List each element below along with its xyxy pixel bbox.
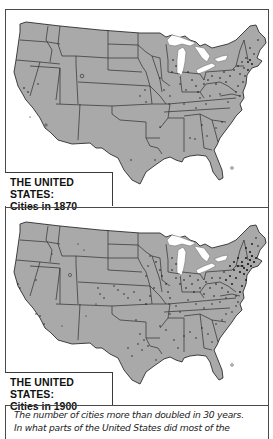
map-panel-1870: THE UNITED STATES: Cities in 1870 [5, 9, 269, 207]
map-panel-1900: THE UNITED STATES: Cities in 1900 [5, 207, 269, 405]
map-title: THE UNITED STATES: [10, 176, 112, 200]
caption-line-2: In what parts of the United States did m… [14, 422, 269, 435]
figure-caption: The number of cities more than doubled i… [5, 405, 269, 435]
caption-line-1: The number of cities more than doubled i… [14, 409, 269, 422]
map-title: THE UNITED STATES: [10, 376, 112, 400]
map-label-1870: THE UNITED STATES: Cities in 1870 [5, 172, 113, 206]
map-label-1900: THE UNITED STATES: Cities in 1900 [5, 372, 113, 406]
